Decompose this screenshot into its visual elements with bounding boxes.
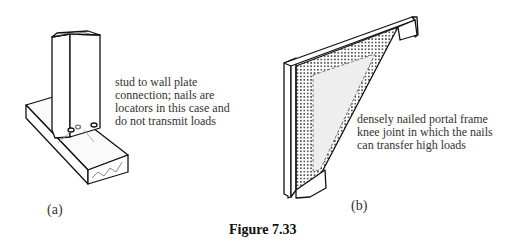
- panel-b-description-line: can transfer high loads: [357, 139, 493, 152]
- panel-a-description: stud to wall plate connection; nails are…: [115, 76, 230, 128]
- panel-a-description-line: do not transmit loads: [115, 115, 230, 128]
- panel-a-label: (a): [47, 202, 63, 218]
- panel-b-label: (b): [351, 198, 367, 214]
- figure-title: Figure 7.33: [229, 222, 296, 238]
- panel-b-description: densely nailed portal frame knee joint i…: [357, 113, 493, 152]
